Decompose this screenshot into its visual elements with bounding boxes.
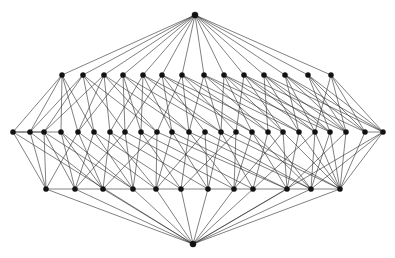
graph-node bbox=[80, 72, 85, 77]
graph-node bbox=[59, 72, 64, 77]
graph-node bbox=[380, 129, 385, 134]
graph-node bbox=[312, 129, 317, 134]
graph-node bbox=[343, 129, 348, 134]
graph-node bbox=[27, 129, 32, 134]
graph-canvas bbox=[0, 0, 395, 258]
graph-node bbox=[265, 129, 270, 134]
graph-node bbox=[169, 129, 174, 134]
graph-apex-node bbox=[192, 12, 198, 18]
graph-node bbox=[140, 72, 145, 77]
graph-node bbox=[328, 72, 333, 77]
graph-node bbox=[327, 129, 332, 134]
graph-node bbox=[153, 186, 158, 191]
graph-node bbox=[41, 129, 46, 134]
graph-node bbox=[296, 129, 301, 134]
graph-node bbox=[101, 72, 106, 77]
graph-node bbox=[202, 129, 207, 134]
graph-node bbox=[138, 129, 143, 134]
graph-node bbox=[284, 186, 289, 191]
graph-node bbox=[221, 72, 226, 77]
graph-node bbox=[122, 129, 127, 134]
graph-node bbox=[250, 186, 255, 191]
graph-node bbox=[91, 129, 96, 134]
graph-node bbox=[58, 129, 63, 134]
graph-node bbox=[201, 72, 206, 77]
graph-node bbox=[337, 186, 342, 191]
graph-node bbox=[130, 186, 135, 191]
graph-node bbox=[100, 186, 105, 191]
graph-node bbox=[231, 186, 236, 191]
graph-node bbox=[159, 72, 164, 77]
graph-node bbox=[120, 72, 125, 77]
graph-node bbox=[10, 129, 15, 134]
graph-node bbox=[107, 129, 112, 134]
graph-node bbox=[178, 186, 183, 191]
graph-node bbox=[282, 72, 287, 77]
graph-node bbox=[308, 186, 313, 191]
graph-node bbox=[205, 186, 210, 191]
graph-node bbox=[186, 129, 191, 134]
graph-node bbox=[154, 129, 159, 134]
graph-node bbox=[305, 72, 310, 77]
graph-node bbox=[179, 72, 184, 77]
graph-node bbox=[218, 129, 223, 134]
graph-node bbox=[280, 129, 285, 134]
graph-node bbox=[249, 129, 254, 134]
graph-node bbox=[241, 72, 246, 77]
graph-apex-node bbox=[190, 241, 196, 247]
graph-node bbox=[75, 129, 80, 134]
graph-node bbox=[43, 186, 48, 191]
graph-node bbox=[261, 72, 266, 77]
figure-background bbox=[0, 0, 395, 258]
graph-figure bbox=[0, 0, 395, 258]
graph-node bbox=[72, 186, 77, 191]
graph-node bbox=[362, 129, 367, 134]
graph-node bbox=[233, 129, 238, 134]
